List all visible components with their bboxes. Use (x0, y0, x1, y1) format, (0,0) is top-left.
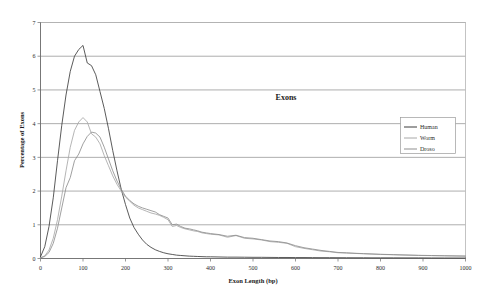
x-tick-label-300: 300 (164, 265, 173, 271)
exon-length-distribution-chart: 01234567 0100200300400500600700800900100… (0, 0, 489, 290)
legend-label-human: Human (420, 124, 438, 130)
x-tick-label-500: 500 (249, 265, 258, 271)
x-tick-label-100: 100 (79, 265, 88, 271)
x-tick-label-600: 600 (291, 265, 300, 271)
x-tick-label-900: 900 (419, 265, 428, 271)
x-tick-label-200: 200 (121, 265, 130, 271)
y-tick-label-2: 2 (33, 188, 36, 194)
y-axis-title: Percentage of Exons (18, 111, 25, 168)
y-tick-label-1: 1 (33, 222, 36, 228)
legend: HumanWormDroso (401, 118, 456, 154)
x-tick-label-1000: 1000 (460, 265, 472, 271)
y-tick-label-5: 5 (33, 87, 36, 93)
y-tick-group: 01234567 (33, 20, 41, 262)
y-tick-label-6: 6 (33, 53, 36, 59)
legend-label-droso: Droso (420, 146, 435, 152)
x-tick-label-400: 400 (206, 265, 215, 271)
y-tick-label-0: 0 (33, 256, 36, 262)
x-tick-label-800: 800 (376, 265, 385, 271)
y-tick-label-3: 3 (33, 155, 36, 161)
x-axis-title: Exon Length (bp) (228, 277, 277, 285)
x-tick-group: 01002003004005006007008009001000 (39, 259, 472, 271)
y-tick-label-7: 7 (33, 20, 36, 26)
y-tick-label-4: 4 (33, 121, 36, 127)
x-tick-label-700: 700 (334, 265, 343, 271)
chart-title: Exons (276, 93, 297, 102)
x-tick-label-0: 0 (39, 265, 42, 271)
legend-label-worm: Worm (420, 135, 435, 141)
chart-figure: 01234567 0100200300400500600700800900100… (0, 0, 489, 290)
